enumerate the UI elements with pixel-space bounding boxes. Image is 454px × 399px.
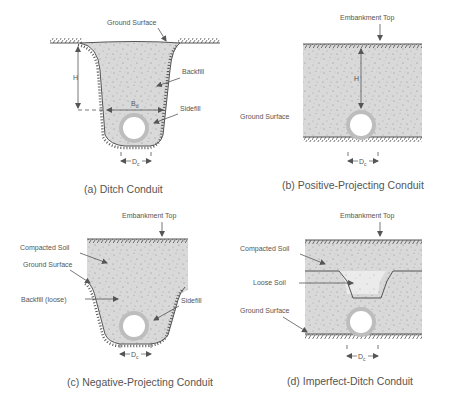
pipe-bore [123, 117, 145, 139]
conduit-diagram: H Bd Ground Surface Backfill Sidefill Dc… [0, 0, 454, 399]
sidefill-label: Sidefill [180, 105, 201, 112]
caption-ditch-conduit: (a) Ditch Conduit [84, 183, 163, 195]
pipe-bore [350, 311, 372, 333]
height-label: H [73, 74, 78, 81]
panel-ditch-conduit: H Bd Ground Surface Backfill Sidefill Dc… [50, 19, 220, 195]
embankment-top-label: Embankment Top [122, 212, 176, 220]
embankment-top-hatch [87, 239, 188, 243]
caption-negative-projecting-conduit: (c) Negative-Projecting Conduit [67, 376, 213, 388]
compacted-soil-label: Compacted Soil [240, 245, 290, 253]
caption-positive-projecting-conduit: (b) Positive-Projecting Conduit [282, 179, 424, 191]
embankment-top-hatch [303, 44, 422, 48]
ground-surface-label: Ground Surface [240, 113, 290, 120]
panel-positive-projecting-conduit: H Embankment Top Ground Surface Dc (b) P… [240, 14, 424, 191]
diameter-label: Dc [358, 353, 366, 362]
loose-soil-label: Loose Soil [253, 279, 286, 286]
panel-imperfect-ditch-conduit: Embankment Top Compacted Soil Loose Soil… [240, 212, 422, 387]
embankment-top-label: Embankment Top [340, 212, 394, 220]
backfill-label: Backfill [182, 68, 205, 75]
diameter-label: Dc [131, 351, 139, 360]
backfill-loose-label: Backfill (loose) [21, 296, 67, 304]
ground-hatch-right [178, 38, 220, 43]
ground-surface-leader [283, 317, 307, 332]
diameter-label: Dc [359, 158, 367, 167]
embankment-top-label: Embankment Top [340, 14, 394, 22]
embankment-top-hatch [305, 240, 422, 244]
height-label: H [354, 75, 359, 82]
ground-surface-leader [158, 28, 166, 41]
ground-surface-label: Ground Surface [23, 261, 73, 268]
panel-negative-projecting-conduit: Embankment Top Compacted Soil Ground Sur… [20, 212, 213, 388]
pipe-bore [350, 114, 372, 136]
ground-hatch-left [50, 38, 82, 43]
ground-surface-label: Ground Surface [240, 307, 290, 314]
compacted-soil-label: Compacted Soil [20, 244, 70, 252]
caption-imperfect-ditch-conduit: (d) Imperfect-Ditch Conduit [287, 375, 413, 387]
sidefill-label: Sidefill [181, 297, 202, 304]
pipe-bore [123, 315, 145, 337]
ground-surface-label: Ground Surface [107, 19, 157, 26]
diameter-label: Dc [132, 158, 140, 167]
